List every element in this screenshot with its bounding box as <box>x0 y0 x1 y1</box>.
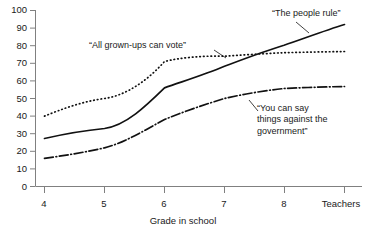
annotation-you-can-say-things-against-the-government: “You can say things against the governme… <box>257 103 339 137</box>
x-tick-label-8: 8 <box>281 199 286 209</box>
annotation-say-things-line-2: things against the <box>257 114 339 125</box>
y-tick-label-40: 40 <box>2 111 27 121</box>
x-tick-label-6: 6 <box>161 199 166 209</box>
y-tick-label-80: 80 <box>2 41 27 51</box>
y-tick-label-0: 0 <box>2 182 27 192</box>
y-tick-label-60: 60 <box>2 76 27 86</box>
x-tick-label-5: 5 <box>101 199 106 209</box>
annotation-say-things-line-1: “You can say <box>257 103 339 114</box>
y-tick-label-50: 50 <box>2 94 27 104</box>
x-tick-label-7: 7 <box>221 199 226 209</box>
leader-line-people-rule <box>296 22 309 33</box>
x-axis-ticks <box>45 187 345 194</box>
y-tick-label-70: 70 <box>2 58 27 68</box>
y-tick-label-100: 100 <box>2 5 27 15</box>
x-tick-label-4: 4 <box>41 199 46 209</box>
y-tick-label-10: 10 <box>2 164 27 174</box>
y-tick-label-90: 90 <box>2 23 27 33</box>
line-chart: 100 90 80 70 60 50 40 30 20 10 0 4 5 6 7… <box>0 0 366 237</box>
y-tick-label-30: 30 <box>2 129 27 139</box>
annotation-say-things-line-3: government” <box>257 126 339 137</box>
annotation-the-people-rule: “The people rule” <box>272 8 341 19</box>
y-axis-ticks <box>30 11 36 187</box>
x-tick-label-teachers: Teachers <box>322 199 361 209</box>
y-tick-label-20: 20 <box>2 146 27 156</box>
annotation-all-grown-ups-can-vote: “All grown-ups can vote” <box>89 40 186 51</box>
x-axis-title: Grade in school <box>150 215 217 226</box>
